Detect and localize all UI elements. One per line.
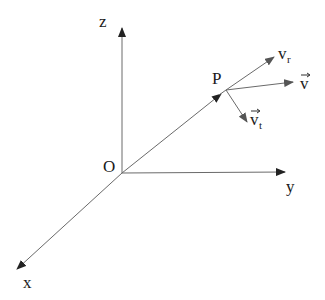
coordinate-diagram: z y x O P v r v v t xyxy=(0,0,325,300)
point-p-label: P xyxy=(212,69,221,88)
diagram-canvas: z y x O P v r v v t xyxy=(0,0,325,300)
vector-v-t xyxy=(226,90,247,122)
v-r-label: v xyxy=(278,44,287,63)
y-axis-label: y xyxy=(286,177,295,196)
z-axis-label: z xyxy=(99,12,107,31)
y-axis xyxy=(122,172,285,173)
x-axis-label: x xyxy=(23,273,32,292)
v-r-subscript: r xyxy=(287,53,291,65)
origin-label: O xyxy=(103,157,115,176)
position-vector-op-tail xyxy=(219,90,226,95)
x-axis xyxy=(17,173,122,269)
position-vector-op xyxy=(122,94,221,173)
v-t-subscript: t xyxy=(259,119,262,131)
